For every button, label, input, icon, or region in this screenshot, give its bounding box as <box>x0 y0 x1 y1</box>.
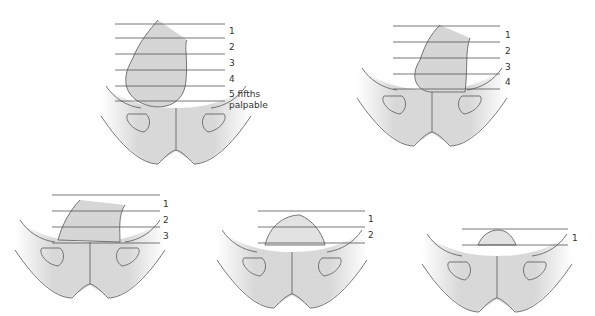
panel-5-fifths: 1 2 3 4 5 fifths palpable <box>101 20 268 164</box>
label-1: 1 <box>505 30 511 40</box>
label-palpable: palpable <box>229 100 268 110</box>
label-3: 3 <box>229 58 235 68</box>
fifths-palpable-diagram: 1 2 3 4 5 fifths palpable 1 2 3 4 1 2 3 <box>0 0 595 316</box>
label-3: 3 <box>163 231 169 241</box>
label-5-fifths: 5 fifths <box>229 89 260 99</box>
label-3: 3 <box>505 62 511 72</box>
label-1: 1 <box>368 214 374 224</box>
label-4: 4 <box>229 74 235 84</box>
panel-1-fifth: 1 <box>422 229 578 312</box>
label-2: 2 <box>229 42 235 52</box>
label-1: 1 <box>572 233 578 243</box>
panel-4-fifths: 1 2 3 4 <box>357 25 511 146</box>
label-1: 1 <box>163 199 169 209</box>
label-2: 2 <box>368 230 374 240</box>
panel-3-fifths: 1 2 3 <box>15 195 169 298</box>
label-2: 2 <box>505 46 511 56</box>
panel-2-fifths: 1 2 <box>217 211 374 308</box>
label-2: 2 <box>163 215 169 225</box>
label-4: 4 <box>505 77 511 87</box>
label-1: 1 <box>229 26 235 36</box>
